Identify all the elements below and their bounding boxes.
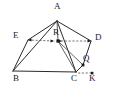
geometry-figure: A E R D B C Q K — [0, 0, 114, 93]
edge-A-B — [13, 21, 57, 71]
point-label-B: B — [13, 74, 19, 83]
vertex-dot-Q — [82, 64, 85, 67]
point-label-R: R — [53, 28, 59, 37]
point-label-C: C — [71, 74, 77, 83]
edge-B-C — [13, 71, 76, 72]
point-label-A: A — [54, 2, 61, 11]
vertex-dot-R — [56, 39, 59, 42]
edge-R-Q — [58, 41, 83, 65]
edge-E-B — [13, 40, 28, 71]
point-label-D: D — [95, 33, 102, 42]
point-label-Q: Q — [83, 54, 90, 63]
edge-A-D — [57, 21, 91, 41]
point-label-E: E — [13, 31, 19, 40]
point-label-K: K — [89, 74, 96, 83]
edge-R-C — [58, 41, 76, 72]
edge-A-C — [57, 21, 76, 72]
arrowhead-toward-R — [51, 40, 55, 43]
